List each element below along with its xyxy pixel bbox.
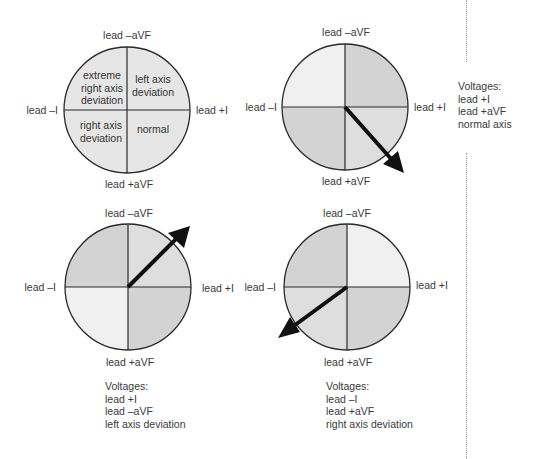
label-lead-neg-avf: lead –aVF [105, 207, 153, 219]
voltage-line: lead –aVF [105, 405, 186, 418]
dotted-divider-top [466, 0, 467, 62]
label-lead-neg-avf: lead –aVF [323, 207, 371, 219]
voltages-note-normal-axis: Voltages: lead +I lead +aVF normal axis [458, 80, 512, 130]
label-lead-neg-i: lead –I [244, 281, 276, 293]
voltage-conclusion: right axis deviation [326, 418, 413, 431]
quadrant-left-axis-deviation: left axis deviation [132, 73, 174, 98]
label-lead-pos-i: lead +I [416, 279, 448, 291]
quadrant-right-axis-deviation: right axis deviation [80, 119, 122, 144]
label-lead-pos-i: lead +I [196, 104, 228, 116]
label-lead-pos-i: lead +I [202, 282, 234, 294]
dotted-divider-bottom [466, 153, 467, 459]
reference-axis-circle [64, 47, 190, 173]
voltage-line: lead +I [458, 93, 512, 106]
label-lead-pos-i: lead +I [414, 101, 446, 113]
voltages-title: Voltages: [326, 380, 413, 393]
label-lead-pos-avf: lead +aVF [105, 178, 153, 190]
normal-axis-circle [282, 44, 408, 173]
quadrant-extreme-right-axis-deviation: extreme right axis deviation [81, 69, 123, 107]
voltage-conclusion: normal axis [458, 118, 512, 131]
voltage-line: lead –I [326, 393, 413, 406]
voltages-title: Voltages: [458, 80, 512, 93]
label-lead-pos-avf: lead +aVF [322, 175, 370, 187]
voltages-note-right-axis-deviation: Voltages: lead –I lead +aVF right axis d… [326, 380, 413, 430]
voltage-line: lead +aVF [326, 405, 413, 418]
label-lead-neg-i: lead –I [24, 281, 56, 293]
quadrant-normal: normal [137, 123, 169, 136]
voltage-conclusion: left axis deviation [105, 418, 186, 431]
voltage-line: lead +I [105, 393, 186, 406]
right-axis-deviation-circle [278, 224, 410, 350]
voltage-line: lead +aVF [458, 105, 512, 118]
voltages-title: Voltages: [105, 380, 186, 393]
voltages-note-left-axis-deviation: Voltages: lead +I lead –aVF left axis de… [105, 380, 186, 430]
label-lead-neg-avf: lead –aVF [103, 29, 151, 41]
label-lead-pos-avf: lead +aVF [324, 356, 372, 368]
label-lead-neg-i: lead –I [26, 104, 58, 116]
label-lead-neg-avf: lead –aVF [322, 26, 370, 38]
left-axis-deviation-circle [65, 224, 191, 350]
label-lead-neg-i: lead –I [245, 101, 277, 113]
label-lead-pos-avf: lead +aVF [106, 356, 154, 368]
